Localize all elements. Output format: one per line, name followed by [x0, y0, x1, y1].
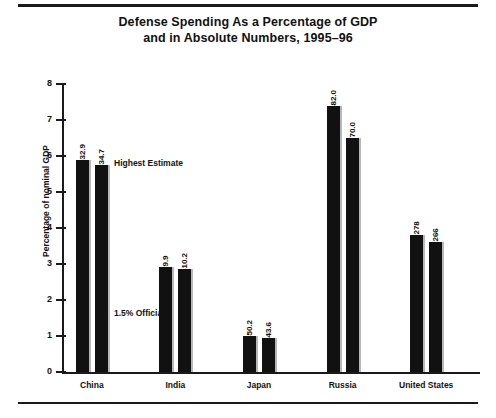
y-tick-0	[56, 371, 66, 373]
bottom-rule	[18, 402, 478, 404]
bar-value-label: $70.0	[349, 122, 357, 142]
bar-value-label: $82.0	[330, 90, 338, 110]
bar	[429, 242, 442, 372]
y-tick-label-6: 6	[36, 151, 52, 160]
chart-title-line-1: Defense Spending As a Percentage of GDP	[0, 14, 496, 30]
bar-value-label: $32.9	[79, 144, 87, 164]
bar-value-label: $278	[413, 221, 421, 239]
bar	[159, 267, 172, 372]
bar-value-label: $43.6	[265, 322, 273, 342]
chart-title: Defense Spending As a Percentage of GDP …	[0, 14, 496, 46]
plot-area: 012345678 $32.9$34.7$9.9$10.2$50.2$43.6$…	[62, 84, 480, 372]
annotation-highest-estimate: Highest Estimate	[114, 158, 183, 168]
annotation-1-5-official: 1.5% Official	[114, 308, 165, 318]
bar-value-label: $10.2	[181, 253, 189, 273]
chart-figure: Defense Spending As a Percentage of GDP …	[0, 0, 496, 418]
y-tick-label-8: 8	[36, 79, 52, 88]
category-label-united-states: United States	[376, 380, 476, 390]
chart-title-line-2: and in Absolute Numbers, 1995–96	[0, 30, 496, 46]
y-tick-6	[56, 155, 66, 157]
bar	[178, 269, 191, 372]
y-tick-label-3: 3	[36, 259, 52, 268]
y-tick-label-5: 5	[36, 187, 52, 196]
y-tick-label-7: 7	[36, 115, 52, 124]
bar	[76, 160, 89, 372]
y-tick-8	[56, 83, 66, 85]
y-tick-3	[56, 263, 66, 265]
x-axis-line	[62, 372, 480, 374]
bar-value-label: $9.9	[162, 255, 170, 271]
bar	[262, 338, 275, 372]
y-tick-label-1: 1	[36, 331, 52, 340]
y-tick-label-0: 0	[36, 367, 52, 376]
y-tick-5	[56, 191, 66, 193]
y-tick-label-4: 4	[36, 223, 52, 232]
bar	[327, 106, 340, 372]
y-tick-4	[56, 227, 66, 229]
bar	[95, 165, 108, 372]
bar-value-label: $266	[432, 229, 440, 247]
top-rule	[18, 4, 478, 7]
y-tick-1	[56, 335, 66, 337]
y-tick-label-2: 2	[36, 295, 52, 304]
bar	[243, 336, 256, 372]
bar	[410, 235, 423, 372]
y-tick-2	[56, 299, 66, 301]
bar-value-label: $34.7	[98, 149, 106, 169]
y-tick-7	[56, 119, 66, 121]
bar-value-label: $50.2	[246, 320, 254, 340]
bar	[346, 138, 359, 372]
